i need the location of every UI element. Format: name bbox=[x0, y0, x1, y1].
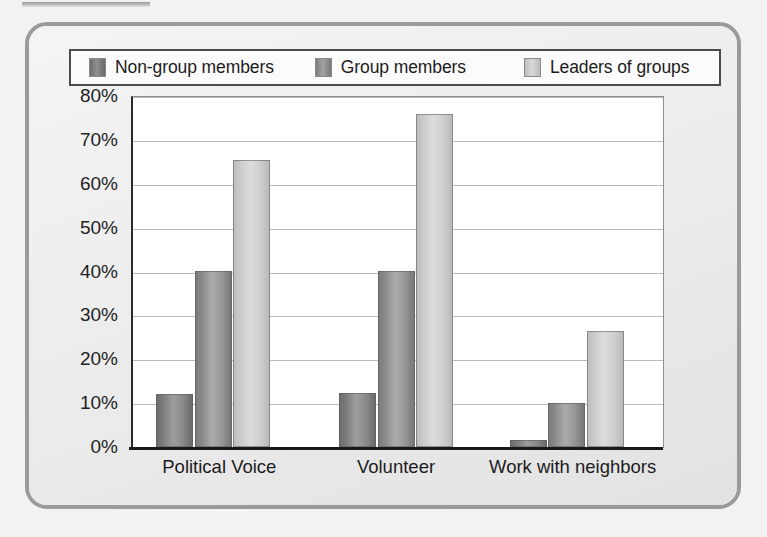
bar-political-voice-series-0 bbox=[156, 394, 193, 447]
chart-frame: Non-group members Group members Leaders … bbox=[25, 22, 741, 509]
legend-swatch-series-1 bbox=[315, 58, 332, 77]
plot-wrapper: 80%70%60%50%40%30%20%10%0% Political Voi… bbox=[69, 96, 721, 496]
bar-work-with-neighbors-series-0 bbox=[510, 440, 547, 447]
y-axis-tick-label: 20% bbox=[80, 348, 118, 370]
bar-volunteer-series-1 bbox=[378, 271, 415, 447]
legend-label-series-2: Leaders of groups bbox=[550, 57, 689, 78]
bar-volunteer-series-2 bbox=[416, 114, 453, 447]
legend-label-series-1: Group members bbox=[341, 57, 466, 78]
chart-frame-inner: Non-group members Group members Leaders … bbox=[29, 26, 737, 505]
bar-political-voice-series-1 bbox=[195, 271, 232, 447]
legend-swatch-series-0 bbox=[89, 58, 106, 77]
x-axis-labels: Political VoiceVolunteerWork with neighb… bbox=[131, 456, 661, 490]
y-axis-tick-label: 30% bbox=[80, 304, 118, 326]
x-axis-label: Volunteer bbox=[357, 456, 435, 478]
x-axis-line bbox=[129, 447, 663, 450]
bar-volunteer-series-0 bbox=[339, 393, 376, 447]
scan-artifact-strip bbox=[22, 2, 150, 7]
y-axis-tick-label: 0% bbox=[91, 436, 118, 458]
y-axis-tick-label: 80% bbox=[80, 85, 118, 107]
y-axis-tick-label: 40% bbox=[80, 261, 118, 283]
bar-political-voice-series-2 bbox=[233, 160, 270, 447]
y-axis-tick-label: 70% bbox=[80, 129, 118, 151]
bar-work-with-neighbors-series-2 bbox=[587, 331, 624, 447]
y-axis-tick-label: 50% bbox=[80, 217, 118, 239]
y-axis-tick-label: 10% bbox=[80, 392, 118, 414]
legend-item-non-group-members: Non-group members bbox=[89, 51, 274, 84]
chart-legend: Non-group members Group members Leaders … bbox=[69, 49, 721, 86]
legend-label-series-0: Non-group members bbox=[115, 57, 274, 78]
y-axis-tick-label: 60% bbox=[80, 173, 118, 195]
legend-swatch-series-2 bbox=[524, 58, 541, 77]
y-axis: 80%70%60%50%40%30%20%10%0% bbox=[69, 96, 124, 448]
legend-item-leaders-of-groups: Leaders of groups bbox=[524, 51, 689, 84]
legend-item-group-members: Group members bbox=[315, 51, 466, 84]
bar-work-with-neighbors-series-1 bbox=[548, 403, 585, 447]
bars-layer bbox=[131, 96, 661, 447]
x-axis-label: Work with neighbors bbox=[489, 456, 656, 478]
x-axis-label: Political Voice bbox=[162, 456, 276, 478]
